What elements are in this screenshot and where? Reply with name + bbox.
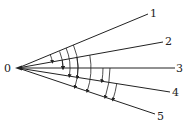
angle-arcs [50, 45, 117, 100]
origin-point [15, 66, 22, 71]
ray-4-label: 4 [172, 86, 179, 99]
ray-1 [18, 14, 148, 68]
ray-5 [18, 68, 155, 114]
ray-3-label: 3 [176, 62, 183, 75]
origin-label: 0 [4, 62, 11, 75]
ray-4 [18, 68, 170, 92]
ray-diagram: 0 1 2 3 4 5 [0, 0, 183, 125]
ray-2-label: 2 [165, 35, 172, 48]
ray-1-label: 1 [150, 7, 157, 20]
ray-5-label: 5 [157, 110, 164, 123]
